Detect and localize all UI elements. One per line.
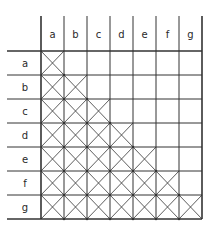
column-header-d: d — [118, 29, 124, 40]
cell-x-mark — [87, 99, 110, 123]
cell-x-mark — [41, 171, 64, 195]
row-header-d: d — [22, 130, 28, 141]
cell-x-mark — [87, 147, 110, 171]
cell-x-mark — [64, 171, 87, 195]
cell-x-mark — [64, 75, 87, 99]
cell-x-mark — [133, 147, 156, 171]
column-header-f: f — [166, 29, 170, 40]
cell-x-mark — [41, 99, 64, 123]
cell-x-mark — [41, 195, 64, 219]
cell-x-mark — [110, 195, 133, 219]
column-header-c: c — [96, 29, 102, 40]
row-header-b: b — [22, 82, 28, 93]
row-header-a: a — [22, 58, 28, 69]
column-header-g: g — [187, 29, 193, 40]
cell-marks — [41, 51, 202, 219]
row-header-f: f — [23, 178, 27, 189]
cell-x-mark — [110, 123, 133, 147]
cell-x-mark — [41, 147, 64, 171]
row-header-c: c — [22, 106, 28, 117]
cell-x-mark — [179, 195, 202, 219]
cell-x-mark — [87, 171, 110, 195]
cell-x-mark — [133, 195, 156, 219]
row-headers: abcdefg — [22, 58, 28, 213]
row-header-e: e — [22, 154, 28, 165]
column-header-a: a — [49, 29, 55, 40]
column-headers: abcdefg — [49, 29, 193, 40]
row-header-g: g — [22, 202, 28, 213]
column-header-b: b — [72, 29, 78, 40]
cell-x-mark — [156, 195, 179, 219]
cell-x-mark — [87, 123, 110, 147]
row-lines — [7, 51, 202, 219]
cell-x-mark — [110, 171, 133, 195]
cell-x-mark — [41, 123, 64, 147]
cell-x-mark — [156, 171, 179, 195]
cell-x-mark — [41, 51, 64, 75]
column-lines — [41, 16, 202, 219]
cell-x-mark — [64, 147, 87, 171]
pairwise-matrix: abcdefgabcdefg — [0, 0, 217, 234]
cell-x-mark — [64, 195, 87, 219]
cell-x-mark — [41, 75, 64, 99]
cell-x-mark — [64, 99, 87, 123]
cell-x-mark — [110, 147, 133, 171]
cell-x-mark — [64, 123, 87, 147]
cell-x-mark — [133, 171, 156, 195]
column-header-e: e — [141, 29, 147, 40]
cell-x-mark — [87, 195, 110, 219]
